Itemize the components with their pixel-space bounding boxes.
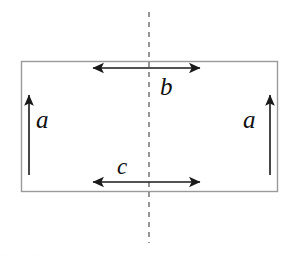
label-b: b	[160, 74, 173, 99]
label-a-left: a	[36, 107, 49, 132]
label-a-right: a	[243, 107, 256, 132]
bottom-cropped-text-artifact: . . . . . . .	[0, 249, 297, 258]
label-c: c	[117, 155, 127, 178]
figure-canvas: b c a a . . . . . . .	[0, 0, 297, 258]
